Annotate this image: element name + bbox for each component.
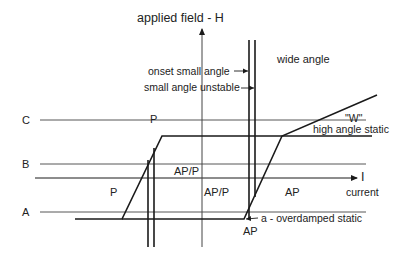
field-axis-label-text: applied field - H [137,11,224,25]
high-angle-static-label: high angle static [313,124,389,135]
current-axis-label: I [361,171,364,184]
field-level-a-label: A [22,207,29,218]
region-label-ap-p-center: AP/P [204,187,229,198]
region-label-ap-bottom: AP [243,226,258,237]
region-label-p-left: P [110,187,117,198]
field-axis-label: applied field - H [137,12,224,25]
region-label-p-top: P [150,114,157,125]
onset-small-angle-label: onset small angle [148,66,230,77]
region-label-ap-right: AP [285,187,300,198]
wide-angle-label: wide angle [277,54,330,65]
w-label: "W" [345,113,362,124]
current-axis-sublabel: current [346,187,379,198]
field-level-b-label: B [22,159,29,170]
region-label-ap-p-upper: AP/P [174,166,199,177]
overdamped-static-arrow [246,218,258,219]
field-level-c-label: C [22,115,30,126]
small-angle-unstable-label: small angle unstable [144,82,240,93]
overdamped-static-label: a - overdamped static [261,213,362,224]
